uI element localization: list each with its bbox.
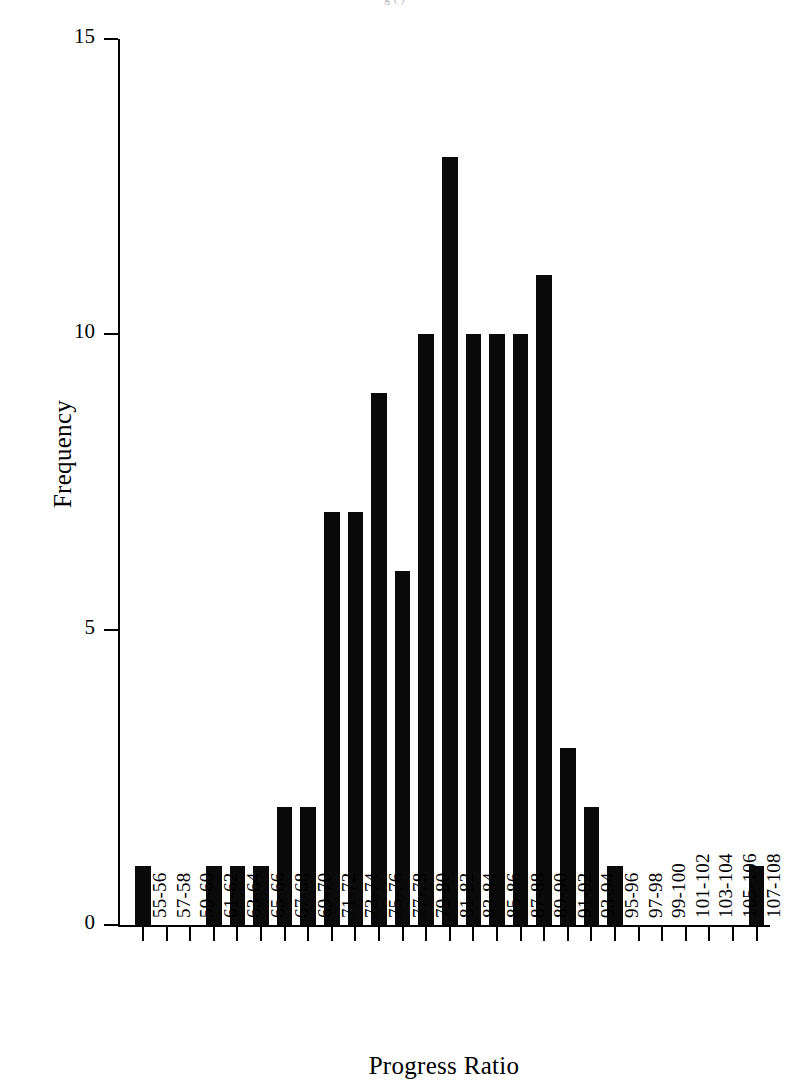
bar: [442, 157, 458, 925]
x-axis-tick-label: 81-82: [457, 873, 476, 918]
x-axis-tick: [213, 927, 215, 941]
y-axis-tick-label: 10: [74, 321, 95, 342]
y-axis-tick: 0: [104, 924, 118, 926]
bar: [348, 512, 364, 925]
x-axis-tick: [472, 927, 474, 941]
x-axis-tick-label: 91-92: [575, 873, 594, 918]
y-axis-title-text: Frequency: [49, 399, 77, 525]
x-axis-tick: [543, 927, 545, 941]
x-axis-tick-label: 75-76: [386, 873, 405, 918]
x-axis-tick: [708, 927, 710, 941]
x-axis-tick: [166, 927, 168, 941]
y-axis-tick: 15: [104, 38, 118, 40]
y-axis-tick-label: 0: [85, 912, 96, 933]
x-axis-tick: [425, 927, 427, 941]
x-axis-tick: [614, 927, 616, 941]
x-axis-tick: [378, 927, 380, 941]
x-axis-tick: [142, 927, 144, 941]
x-axis-tick-label: 55-56: [150, 873, 169, 918]
x-axis-tick-label: 105-106: [740, 853, 759, 918]
x-axis-tick: [331, 927, 333, 941]
x-axis-tick-label: 97-98: [646, 873, 665, 918]
x-axis-title: Progress Ratio: [118, 1052, 770, 1080]
x-axis-tick-label: 59-60: [197, 873, 216, 918]
x-axis-tick: [496, 927, 498, 941]
y-axis-tick: 10: [104, 333, 118, 335]
x-axis-tick-label: 73-74: [362, 873, 381, 918]
x-axis-tick-label: 71-72: [339, 873, 358, 918]
x-axis-tick-label: 67-68: [292, 873, 311, 918]
x-axis-tick: [590, 927, 592, 941]
bar: [371, 393, 387, 925]
bar: [513, 334, 529, 925]
x-axis-tick-label: 77-78: [410, 873, 429, 918]
y-axis-tick: 5: [104, 629, 118, 631]
bar: [418, 334, 434, 925]
x-axis-tick: [354, 927, 356, 941]
y-axis-line: [118, 39, 120, 925]
x-axis-tick: [661, 927, 663, 941]
x-axis-tick-label: 63-64: [244, 873, 263, 918]
bar: [466, 334, 482, 925]
x-axis-tick: [567, 927, 569, 941]
x-axis-tick-label: 103-104: [716, 853, 735, 918]
x-axis-tick-label: 69-70: [315, 873, 334, 918]
x-axis-line: [118, 925, 770, 927]
bar: [489, 334, 505, 925]
x-axis-tick: [189, 927, 191, 941]
x-axis-tick: [520, 927, 522, 941]
x-axis-tick: [756, 927, 758, 941]
histogram-figure: g ( ) Frequency 051015 55-5657-5859-6061…: [0, 0, 789, 1091]
x-axis-tick-label: 107-108: [764, 853, 783, 918]
x-axis-tick-label: 85-86: [504, 873, 523, 918]
x-axis-tick-label: 65-66: [268, 873, 287, 918]
x-axis-tick-label: 87-88: [528, 873, 547, 918]
x-axis-tick: [236, 927, 238, 941]
x-axis-tick-label: 61-62: [221, 873, 240, 918]
x-axis-tick-label: 93-94: [598, 873, 617, 918]
y-axis-tick-label: 15: [74, 26, 95, 47]
x-axis-tick: [260, 927, 262, 941]
x-axis-tick-label: 89-90: [551, 873, 570, 918]
x-axis-tick: [449, 927, 451, 941]
x-axis-tick-label: 101-102: [693, 853, 712, 918]
x-axis-tick: [732, 927, 734, 941]
x-axis-tick-label: 95-96: [622, 873, 641, 918]
x-axis-tick-label: 57-58: [174, 873, 193, 918]
clipped-header-text: g ( ): [0, 0, 789, 5]
bar: [324, 512, 340, 925]
x-axis-tick: [685, 927, 687, 941]
x-axis-tick: [402, 927, 404, 941]
x-axis-tick: [638, 927, 640, 941]
y-axis-tick-label: 5: [85, 617, 96, 638]
x-axis-tick-label: 99-100: [669, 863, 688, 918]
plot-area: 051015: [118, 39, 770, 925]
x-axis-tick-label: 79-80: [433, 873, 452, 918]
bar: [536, 275, 552, 925]
x-axis-tick: [307, 927, 309, 941]
y-axis-title: Frequency: [0, 0, 120, 925]
x-axis-tick-label: 83-84: [480, 873, 499, 918]
x-axis-tick: [284, 927, 286, 941]
